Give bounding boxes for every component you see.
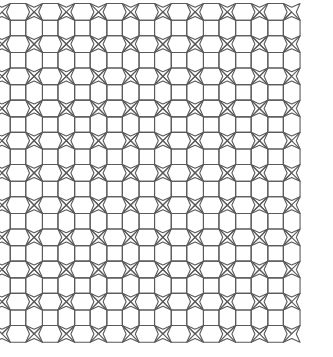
pattern-canvas <box>0 0 333 357</box>
tessellation-figure <box>0 0 333 357</box>
